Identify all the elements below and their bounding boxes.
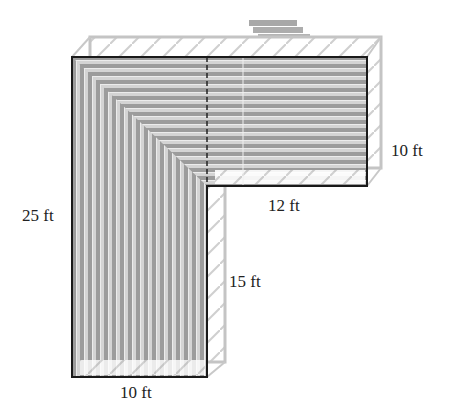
deck-diagram: 25 ft 10 ft 12 ft 15 ft 10 ft [0, 0, 457, 412]
label-inner-vertical: 15 ft [229, 272, 261, 292]
label-inner-horizontal: 12 ft [268, 196, 300, 216]
deck-plan-graphic [0, 0, 457, 412]
label-left-height: 25 ft [22, 206, 54, 226]
label-bottom-width: 10 ft [120, 383, 152, 403]
label-top-right-height: 10 ft [391, 141, 423, 161]
